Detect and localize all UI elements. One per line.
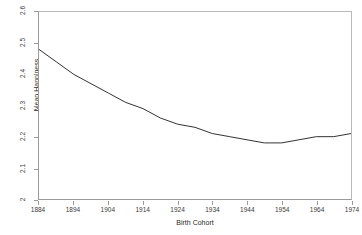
y-axis-tick-label: 2.5 [19,34,26,50]
x-axis-tick-label: 1924 [170,206,184,214]
y-axis-tick-label: 2.4 [19,66,26,82]
x-axis-title: Birth Cohort [38,219,352,227]
x-axis-tick [317,201,318,205]
y-axis: Mean Happiness 22.12.22.32.42.52.6 [0,11,38,200]
x-axis: 1884189419041914192419341944195419641974 [38,201,352,217]
y-axis-tick-label: 2.2 [19,129,26,145]
y-axis-tick-label: 2.1 [19,160,26,176]
x-axis-tick-label: 1974 [345,206,359,214]
x-axis-tick [143,201,144,205]
plot-area [38,11,352,200]
x-axis-tick-label: 1894 [66,206,80,214]
x-axis-tick [247,201,248,205]
y-axis-tick-label: 2.3 [19,97,26,113]
x-axis-tick [178,201,179,205]
happiness-by-birth-cohort-chart: Mean Happiness 22.12.22.32.42.52.6 Birth… [0,0,362,235]
x-axis-tick [108,201,109,205]
x-axis-tick-label: 1914 [135,206,149,214]
x-axis-tick-label: 1884 [31,206,45,214]
x-axis-tick-label: 1934 [205,206,219,214]
y-axis-tick-label: 2.6 [19,3,26,19]
x-axis-tick [212,201,213,205]
x-axis-tick [282,201,283,205]
x-axis-tick-label: 1944 [240,206,254,214]
y-axis-tick-label: 2 [19,192,26,208]
x-axis-tick-label: 1964 [310,206,324,214]
line-series [39,12,351,199]
x-axis-tick [38,201,39,205]
x-axis-tick [352,201,353,205]
x-axis-tick-label: 1904 [101,206,115,214]
x-axis-tick-label: 1954 [275,206,289,214]
x-axis-tick [73,201,74,205]
